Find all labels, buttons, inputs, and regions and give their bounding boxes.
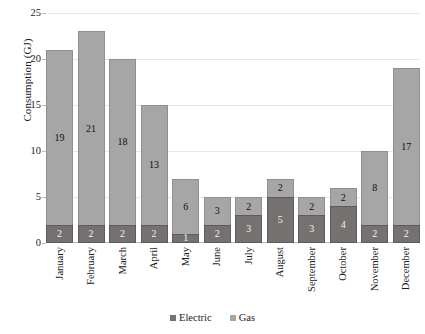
bar-value-label: 3 [215, 206, 220, 216]
bar-value-label: 3 [309, 224, 314, 234]
bar-segment-electric[interactable]: 2 [141, 225, 168, 243]
bar-value-label: 2 [57, 229, 62, 239]
legend-label: Electric [179, 312, 212, 323]
bar-segment-gas[interactable]: 8 [361, 151, 388, 225]
bar-segment-gas[interactable]: 2 [330, 188, 357, 206]
bar-segment-gas[interactable]: 2 [267, 179, 294, 197]
x-axis-label-cell: June [204, 247, 231, 309]
x-axis-labels: JanuaryFebruaryMarchAprilMayJuneJulyAugu… [46, 247, 420, 309]
bar-value-label: 2 [341, 193, 346, 203]
bar-segment-gas[interactable]: 18 [109, 59, 136, 225]
bar-value-label: 17 [401, 142, 411, 152]
legend-swatch-icon [230, 315, 236, 321]
bar-column[interactable]: 61 [172, 13, 199, 243]
bar-segment-electric[interactable]: 3 [235, 215, 262, 243]
bar-value-label: 2 [215, 229, 220, 239]
bar-segment-electric[interactable]: 2 [78, 225, 105, 243]
x-axis-tick-label: April [149, 247, 160, 269]
bar-segment-gas[interactable]: 3 [204, 197, 231, 225]
bar-value-label: 2 [309, 202, 314, 212]
x-axis-label-cell: April [141, 247, 168, 309]
bar-segment-electric[interactable]: 5 [267, 197, 294, 243]
y-axis-title: Consumption (GJ) [21, 0, 33, 165]
legend-item[interactable]: Gas [230, 312, 255, 323]
bar-segment-gas[interactable]: 21 [78, 31, 105, 224]
bar-column[interactable]: 172 [393, 13, 420, 243]
bar-column[interactable]: 192 [46, 13, 73, 243]
x-axis-tick-label: September [307, 247, 318, 292]
plot-area: 0510152025 19221218213261322325232482172 [46, 13, 420, 243]
bar-segment-electric[interactable]: 4 [330, 206, 357, 243]
bar-column[interactable]: 182 [109, 13, 136, 243]
y-axis-tick-label: 20 [31, 54, 42, 65]
bar-value-label: 19 [55, 133, 65, 143]
bar-segment-gas[interactable]: 6 [172, 179, 199, 234]
bar-segment-electric[interactable]: 3 [298, 215, 325, 243]
bar-value-label: 2 [120, 229, 125, 239]
bar-column[interactable]: 25 [267, 13, 294, 243]
x-axis-tick-label: July [243, 247, 254, 265]
bar-value-label: 18 [118, 137, 128, 147]
bar-column[interactable]: 23 [298, 13, 325, 243]
bar-segment-gas[interactable]: 19 [46, 50, 73, 225]
bar-value-label: 2 [278, 183, 283, 193]
bar-column[interactable]: 24 [330, 13, 357, 243]
x-axis-tick-label: May [180, 247, 191, 266]
y-axis-tick-label: 10 [31, 146, 42, 157]
bar-segment-electric[interactable]: 2 [204, 225, 231, 243]
x-axis-label-cell: January [46, 247, 73, 309]
y-axis-tick-mark [42, 243, 46, 244]
bar-segment-electric[interactable]: 2 [361, 225, 388, 243]
x-axis-tick-label: March [117, 247, 128, 274]
legend-item[interactable]: Electric [170, 312, 212, 323]
legend-swatch-icon [170, 315, 176, 321]
bar-column[interactable]: 132 [141, 13, 168, 243]
bar-segment-gas[interactable]: 2 [235, 197, 262, 215]
bar-segment-electric[interactable]: 2 [109, 225, 136, 243]
x-axis-label-cell: December [393, 247, 420, 309]
chart-legend: ElectricGas [0, 312, 425, 323]
bar-column[interactable]: 82 [361, 13, 388, 243]
x-axis-label-cell: August [267, 247, 294, 309]
x-axis-label-cell: March [109, 247, 136, 309]
bar-segment-electric[interactable]: 2 [46, 225, 73, 243]
x-axis-label-cell: February [78, 247, 105, 309]
bar-column[interactable]: 23 [235, 13, 262, 243]
bar-value-label: 2 [404, 229, 409, 239]
y-axis-tick-label: 25 [31, 8, 42, 19]
bar-value-label: 3 [246, 224, 251, 234]
bar-value-label: 21 [86, 124, 96, 134]
x-axis-tick-label: November [370, 247, 381, 291]
x-axis-tick-label: December [401, 247, 412, 290]
bar-value-label: 5 [278, 215, 283, 225]
bar-segment-gas[interactable]: 13 [141, 105, 168, 225]
legend-label: Gas [239, 312, 255, 323]
x-axis-label-cell: July [235, 247, 262, 309]
bar-segment-electric[interactable]: 2 [393, 225, 420, 243]
x-axis-tick-label: June [212, 247, 223, 266]
x-axis-label-cell: May [172, 247, 199, 309]
bar-column[interactable]: 212 [78, 13, 105, 243]
x-axis-tick-label: August [275, 247, 286, 277]
bar-value-label: 13 [149, 160, 159, 170]
stacked-bar-chart: Consumption (GJ) 0510152025 192212182132… [0, 0, 425, 334]
x-axis-tick-label: October [338, 247, 349, 281]
bar-value-label: 2 [372, 229, 377, 239]
x-axis-label-cell: November [361, 247, 388, 309]
bar-value-label: 4 [341, 220, 346, 230]
x-axis-tick-label: February [86, 247, 97, 285]
x-axis-label-cell: October [330, 247, 357, 309]
y-axis-tick-label: 5 [36, 192, 41, 203]
bar-value-label: 2 [152, 229, 157, 239]
bar-value-label: 2 [89, 229, 94, 239]
bar-value-label: 6 [183, 202, 188, 212]
bar-value-label: 8 [372, 183, 377, 193]
bar-group: 19221218213261322325232482172 [46, 13, 420, 243]
x-axis-tick-label: January [54, 247, 65, 280]
bar-segment-electric[interactable]: 1 [172, 234, 199, 243]
bar-segment-gas[interactable]: 2 [298, 197, 325, 215]
bar-value-label: 1 [183, 233, 188, 243]
y-axis-tick-label: 15 [31, 100, 42, 111]
bar-column[interactable]: 32 [204, 13, 231, 243]
bar-segment-gas[interactable]: 17 [393, 68, 420, 224]
